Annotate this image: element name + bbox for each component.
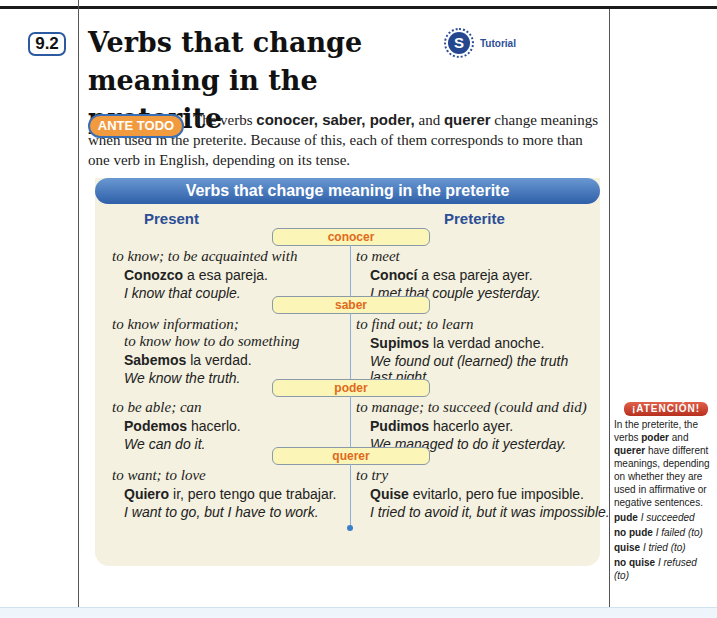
preterite-example: Supimos la verdad anoche. xyxy=(370,335,544,351)
preterite-meaning: to meet xyxy=(356,248,400,264)
preterite-example: Quise evitarlo, pero fue imposible. xyxy=(370,486,584,502)
timeline-stem xyxy=(350,464,351,528)
present-example: Podemos hacerlo. xyxy=(124,418,241,434)
verb-label-poder: poder xyxy=(272,379,430,397)
section-number-badge: 9.2 xyxy=(28,32,66,56)
atencion-pair: pude I succeeded xyxy=(614,511,714,524)
left-margin-rule xyxy=(78,0,79,607)
column-header-present: Present xyxy=(144,210,199,227)
atencion-pair: quise I tried (to) xyxy=(614,541,714,554)
present-meaning: to know how to do something xyxy=(124,333,299,349)
bottom-bar xyxy=(0,607,717,618)
tutorial-link[interactable]: S Tutorial xyxy=(444,28,516,58)
preterite-example: Conocí a esa pareja ayer. xyxy=(370,267,533,283)
present-meaning: to know; to be acquainted with xyxy=(112,248,297,264)
present-meaning: to want; to love xyxy=(112,467,206,483)
preterite-meaning: to manage; to succeed (could and did) xyxy=(356,399,587,415)
verb-label-conocer: conocer xyxy=(272,228,430,246)
atencion-pair: no quise I refused (to) xyxy=(614,556,714,582)
timeline-dot xyxy=(347,525,353,531)
present-translation: We can do it. xyxy=(124,436,205,452)
preterite-translation: We found out (learned) the truth xyxy=(370,353,568,369)
preterite-meaning: to find out; to learn xyxy=(356,316,474,332)
present-example: Quiero ir, pero tengo que trabajar. xyxy=(124,486,336,502)
present-translation: I want to go, but I have to work. xyxy=(124,504,319,520)
atencion-pair: no pude I failed (to) xyxy=(614,526,714,539)
atencion-note: In the preterite, the verbs poder and qu… xyxy=(614,418,714,582)
ante-todo-badge: ANTE TODO xyxy=(88,114,184,138)
present-meaning: to be able; can xyxy=(112,399,202,415)
present-meaning: to know information; xyxy=(112,316,239,332)
preterite-meaning: to try xyxy=(356,467,388,483)
verb-label-saber: saber xyxy=(272,296,430,314)
chart-title: Verbs that change meaning in the preteri… xyxy=(95,178,600,204)
verb-label-querer: querer xyxy=(272,447,430,465)
column-header-preterite: Preterite xyxy=(444,210,505,227)
present-translation: We know the truth. xyxy=(124,370,240,386)
tutorial-label: Tutorial xyxy=(480,38,516,49)
tutorial-icon: S xyxy=(444,28,474,58)
present-translation: I know that couple. xyxy=(124,285,241,301)
preterite-translation: I tried to avoid it, but it was impossib… xyxy=(370,504,610,520)
present-example: Conozco a esa pareja. xyxy=(124,267,268,283)
present-example: Sabemos la verdad. xyxy=(124,352,252,368)
atencion-badge: ¡ATENCIÓN! xyxy=(624,402,708,416)
preterite-example: Pudimos hacerlo ayer. xyxy=(370,418,513,434)
